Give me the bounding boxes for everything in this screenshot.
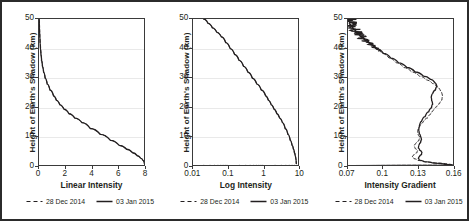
- x-tick-mark: [38, 166, 39, 169]
- solid-line-icon: [250, 198, 267, 205]
- panel-log-intensity: Height of Earth's Shadow (km) 0102030405…: [158, 4, 312, 219]
- x-tick-mark: [264, 166, 265, 169]
- y-tick-label: 40: [14, 44, 34, 52]
- y-axis-title: Height of Earth's Shadow (km): [336, 18, 345, 168]
- x-tick-label: 0.16: [446, 170, 462, 178]
- y-tick-label: 20: [14, 103, 34, 111]
- y-tick-label: 50: [14, 14, 34, 22]
- y-tick-label: 50: [323, 14, 343, 22]
- x-tick-mark: [118, 166, 119, 169]
- x-axis-title: Linear Intensity: [38, 180, 145, 190]
- series-lines: [193, 19, 298, 165]
- series-line: [39, 19, 144, 163]
- y-tick-label: 20: [323, 103, 343, 111]
- x-tick-label: 4: [89, 170, 94, 178]
- x-tick-label: 1: [261, 170, 266, 178]
- legend-panel-3: 28 Dec 2014 03 Jan 2015: [329, 198, 469, 205]
- legend-item-solid: 03 Jan 2015: [250, 198, 308, 205]
- series-line: [204, 19, 297, 163]
- y-tick-label: 0: [14, 162, 34, 170]
- solid-line-icon: [96, 198, 113, 205]
- legend-label: 03 Jan 2015: [425, 198, 463, 205]
- legend-label: 28 Dec 2014: [46, 198, 85, 205]
- y-tick-label: 30: [323, 73, 343, 81]
- y-tick-label: 10: [14, 132, 34, 140]
- x-tick-mark: [454, 166, 455, 169]
- x-tick-label: 2: [62, 170, 67, 178]
- series-lines: [39, 19, 144, 165]
- x-tick-mark: [145, 166, 146, 169]
- series-line: [204, 19, 297, 163]
- x-tick-mark: [228, 166, 229, 169]
- panel-intensity-gradient: Height of Earth's Shadow (km) 0102030405…: [313, 4, 467, 219]
- x-tick-label: 10: [295, 170, 304, 178]
- y-tick-label: 20: [168, 103, 188, 111]
- legend-item-dashed: 28 Dec 2014: [335, 198, 394, 205]
- solid-line-icon: [405, 198, 422, 205]
- legend-item-solid: 03 Jan 2015: [96, 198, 154, 205]
- x-tick-label: 0.1: [222, 170, 233, 178]
- dashed-line-icon: [335, 198, 352, 205]
- x-tick-mark: [65, 166, 66, 169]
- series-svg: [348, 19, 454, 166]
- legend-item-solid: 03 Jan 2015: [405, 198, 463, 205]
- x-tick-mark: [192, 166, 193, 169]
- series-svg: [193, 19, 299, 166]
- legend-item-dashed: 28 Dec 2014: [180, 198, 239, 205]
- x-tick-mark: [347, 166, 348, 169]
- noise-band: [348, 19, 381, 51]
- y-tick-label: 30: [168, 73, 188, 81]
- plot-area-linear-intensity: [38, 18, 145, 166]
- x-tick-mark: [418, 166, 419, 169]
- legend-label: 28 Dec 2014: [200, 198, 239, 205]
- dashed-line-icon: [180, 198, 197, 205]
- panel-linear-intensity: Height of Earth's Shadow (km) 0102030405…: [4, 4, 158, 219]
- dashed-line-icon: [26, 198, 43, 205]
- x-axis-title: Intensity Gradient: [347, 180, 454, 190]
- series-line: [39, 19, 144, 163]
- y-axis-title: Height of Earth's Shadow (km): [182, 18, 191, 168]
- x-axis-title: Log Intensity: [192, 180, 299, 190]
- x-tick-mark: [299, 166, 300, 169]
- legend-panel-1: 28 Dec 2014 03 Jan 2015: [20, 198, 160, 205]
- series-svg: [39, 19, 145, 166]
- y-tick-label: 50: [168, 14, 188, 22]
- x-tick-label: 0.01: [184, 170, 200, 178]
- legend-label: 03 Jan 2015: [270, 198, 308, 205]
- series-lines: [348, 19, 453, 165]
- legend-panel-2: 28 Dec 2014 03 Jan 2015: [174, 198, 314, 205]
- legend-label: 03 Jan 2015: [116, 198, 154, 205]
- y-tick-label: 10: [168, 132, 188, 140]
- y-tick-label: 30: [14, 73, 34, 81]
- plot-area-log-intensity: [192, 18, 299, 166]
- y-tick-label: 40: [168, 44, 188, 52]
- legend-item-dashed: 28 Dec 2014: [26, 198, 85, 205]
- x-tick-label: 6: [116, 170, 121, 178]
- x-tick-mark: [92, 166, 93, 169]
- x-tick-mark: [382, 166, 383, 169]
- figure-container: Height of Earth's Shadow (km) 0102030405…: [0, 0, 469, 221]
- y-tick-label: 10: [323, 132, 343, 140]
- y-axis-title: Height of Earth's Shadow (km): [28, 18, 37, 168]
- x-tick-label: 8: [143, 170, 148, 178]
- panel-row: Height of Earth's Shadow (km) 0102030405…: [4, 4, 467, 219]
- legend-label: 28 Dec 2014: [355, 198, 394, 205]
- x-tick-label: 0.1: [377, 170, 388, 178]
- y-tick-label: 40: [323, 44, 343, 52]
- x-tick-label: 0.13: [410, 170, 426, 178]
- plot-area-intensity-gradient: [347, 18, 454, 166]
- x-tick-label: 0.07: [339, 170, 355, 178]
- x-tick-label: 0: [36, 170, 41, 178]
